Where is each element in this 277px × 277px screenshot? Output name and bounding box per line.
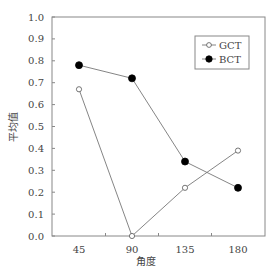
- y-axis-title: 平均值: [7, 112, 19, 142]
- line-chart: 0.00.10.20.30.40.50.60.70.80.91.0 459013…: [0, 0, 277, 277]
- y-tick-label: 1.0: [28, 12, 44, 23]
- y-tick-label: 0.3: [28, 165, 44, 176]
- x-tick-label: 180: [228, 244, 247, 255]
- y-tick-label: 0.0: [28, 231, 44, 242]
- data-point: [76, 87, 81, 92]
- legend-label: GCT: [219, 40, 242, 51]
- y-tick-label: 0.1: [28, 209, 44, 220]
- y-tick-label: 0.7: [28, 77, 44, 88]
- y-tick-label: 0.4: [28, 143, 44, 154]
- y-tick-label: 0.6: [28, 99, 44, 110]
- data-point: [235, 148, 240, 153]
- data-point: [182, 158, 189, 165]
- x-tick-label: 135: [175, 244, 194, 255]
- legend-label: BCT: [219, 54, 241, 65]
- legend: GCTBCT: [195, 36, 249, 69]
- y-tick-label: 0.8: [28, 55, 44, 66]
- data-point: [129, 233, 134, 238]
- data-point: [235, 184, 242, 191]
- y-tick-label: 0.9: [28, 33, 44, 44]
- series-layer: [76, 62, 242, 239]
- data-point: [182, 185, 187, 190]
- data-point: [76, 62, 83, 69]
- data-point: [129, 75, 136, 82]
- filled-circle-marker-icon: [206, 56, 212, 62]
- x-tick-label: 90: [126, 244, 139, 255]
- series-gct: [76, 87, 240, 239]
- x-axis-title: 角度: [136, 255, 156, 267]
- y-tick-label: 0.5: [28, 121, 44, 132]
- series-bct: [76, 62, 242, 192]
- y-axis: 0.00.10.20.30.40.50.60.70.80.91.0: [28, 12, 55, 242]
- x-tick-label: 45: [73, 244, 86, 255]
- y-tick-label: 0.2: [28, 187, 44, 198]
- open-circle-marker-icon: [207, 43, 212, 48]
